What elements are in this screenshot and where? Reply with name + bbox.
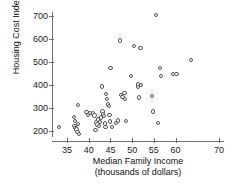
data-point	[156, 121, 160, 125]
data-point	[104, 92, 108, 96]
data-point	[76, 103, 80, 107]
x-axis-title-line2: (thousands of dollars)	[52, 167, 224, 178]
data-point	[158, 66, 162, 70]
data-point	[137, 95, 141, 99]
data-point	[97, 124, 101, 128]
data-point	[110, 125, 114, 129]
x-axis-title: Median Family Income (thousands of dolla…	[52, 156, 224, 178]
x-tick-mark	[110, 138, 111, 143]
data-point	[57, 125, 61, 129]
x-tick-label: 45	[105, 145, 115, 155]
data-point	[107, 113, 111, 117]
y-tick-label: 300	[33, 103, 48, 113]
y-tick-mark	[49, 16, 54, 17]
data-point	[107, 104, 111, 108]
x-tick-label: 55	[149, 145, 159, 155]
y-tick-mark	[49, 108, 54, 109]
y-tick-label: 500	[33, 57, 48, 67]
y-tick-mark	[49, 85, 54, 86]
x-tick-mark	[132, 138, 133, 143]
data-point	[98, 120, 102, 124]
data-point	[122, 91, 126, 95]
data-point	[129, 74, 133, 78]
y-tick-label: 700	[33, 11, 48, 21]
y-tick-label: 600	[33, 34, 48, 44]
x-tick-label: 70	[214, 145, 224, 155]
data-point	[93, 128, 97, 132]
x-tick-mark	[219, 138, 220, 143]
x-axis-title-line1: Median Family Income	[93, 156, 184, 166]
data-point	[132, 44, 136, 48]
y-tick-mark	[49, 131, 54, 132]
data-point	[118, 38, 122, 42]
x-tick-label: 60	[171, 145, 181, 155]
data-point	[103, 125, 107, 129]
data-point	[105, 97, 109, 101]
data-point	[123, 97, 127, 101]
x-tick-label: 40	[84, 145, 94, 155]
data-point	[116, 118, 120, 122]
data-point	[150, 94, 154, 98]
scatter-plot-figure: 35404550556070200300400500600700 Median …	[0, 0, 235, 190]
y-tick-label: 200	[33, 126, 48, 136]
x-tick-mark	[89, 138, 90, 143]
x-tick-label: 35	[62, 145, 72, 155]
data-point	[100, 84, 104, 88]
data-point	[151, 109, 155, 113]
data-point	[102, 114, 106, 118]
x-tick-label: 50	[127, 145, 137, 155]
y-axis-title: Housing Cost Index	[11, 0, 21, 95]
y-tick-label: 400	[33, 80, 48, 90]
data-point	[108, 119, 112, 123]
x-axis-line	[52, 141, 224, 142]
data-point	[138, 46, 142, 50]
y-axis-line	[52, 12, 53, 137]
x-tick-mark	[154, 138, 155, 143]
x-tick-mark	[67, 138, 68, 143]
data-point	[76, 122, 80, 126]
data-point	[154, 13, 158, 17]
data-point	[108, 66, 112, 70]
data-point	[77, 132, 81, 136]
data-point	[159, 74, 163, 78]
data-point	[139, 83, 143, 87]
data-point	[189, 58, 193, 62]
y-tick-mark	[49, 39, 54, 40]
data-point	[124, 119, 128, 123]
x-tick-mark	[176, 138, 177, 143]
data-point	[174, 72, 178, 76]
y-tick-mark	[49, 62, 54, 63]
